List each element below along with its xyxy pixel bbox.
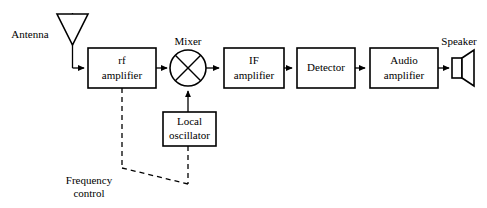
audio-amplifier-label-line1: Audio: [390, 54, 418, 66]
if-amplifier-label-line2: amplifier: [234, 69, 275, 81]
block-if-amplifier[interactable]: IF amplifier: [224, 48, 284, 88]
antenna-icon: [57, 13, 88, 68]
rf-amplifier-label-line2: amplifier: [102, 69, 143, 81]
block-local-oscillator[interactable]: Local oscillator: [163, 112, 216, 146]
local-oscillator-label-line2: oscillator: [169, 129, 210, 141]
speaker-icon: [452, 50, 474, 86]
diagram-svg: rf amplifier IF amplifier Detector: [0, 0, 487, 208]
block-rf-amplifier[interactable]: rf amplifier: [88, 48, 156, 88]
antenna-label: Antenna: [11, 28, 48, 40]
mixer-icon[interactable]: [170, 50, 206, 86]
block-diagram-canvas: rf amplifier IF amplifier Detector: [0, 0, 487, 208]
mixer-label: Mixer: [175, 35, 202, 47]
audio-amplifier-label-line2: amplifier: [384, 69, 425, 81]
detector-label: Detector: [307, 61, 345, 73]
if-amplifier-label-line1: IF: [249, 54, 259, 66]
rf-amplifier-label-line1: rf: [118, 54, 126, 66]
block-audio-amplifier[interactable]: Audio amplifier: [370, 48, 438, 88]
wire-frequency-control-diagonal: [122, 168, 188, 184]
frequency-control-label-line1: Frequency: [66, 174, 113, 186]
frequency-control-label-line2: control: [73, 187, 104, 199]
speaker-label: Speaker: [441, 35, 477, 47]
local-oscillator-label-line1: Local: [177, 115, 202, 127]
block-detector[interactable]: Detector: [297, 48, 355, 88]
